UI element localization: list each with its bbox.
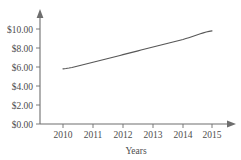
y-tick-label-2: $2.00 <box>12 101 34 111</box>
y-tick-label-6: $6.00 <box>12 63 34 73</box>
line-chart-figure: $10.00 $8.00 $6.00 $4.00 $2.00 $0.00 201… <box>0 0 241 160</box>
x-tick-label-2012: 2012 <box>114 130 133 140</box>
x-tick-label-2014: 2014 <box>174 130 193 140</box>
x-tick-label-2011: 2011 <box>84 130 103 140</box>
y-tick-label-8: $8.00 <box>12 44 34 54</box>
chart-canvas: $10.00 $8.00 $6.00 $4.00 $2.00 $0.00 201… <box>0 0 241 160</box>
x-axis-title: Years <box>125 146 147 156</box>
x-tick-label-2013: 2013 <box>144 130 163 140</box>
y-tick-label-4: $4.00 <box>12 82 34 92</box>
x-tick-label-2015: 2015 <box>203 130 222 140</box>
y-tick-label-0: $0.00 <box>12 120 34 130</box>
x-tick-label-2010: 2010 <box>54 130 73 140</box>
y-tick-label-10: $10.00 <box>7 25 33 35</box>
